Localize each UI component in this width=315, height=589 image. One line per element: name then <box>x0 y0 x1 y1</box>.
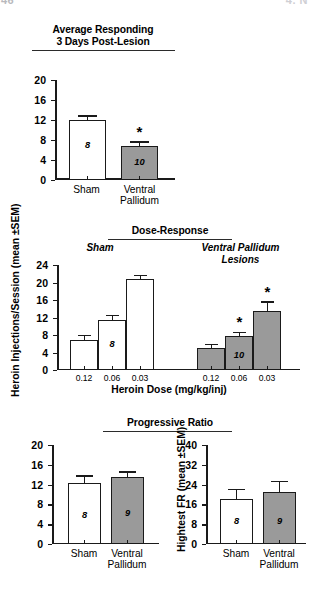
bar-sham-dose-003 <box>126 279 154 370</box>
panel-c-right-plot: 40 32 24 16 8 0 8 9 Sham Ventral Pallidu… <box>206 445 306 544</box>
panel-c-left-xcat-vp: Ventral Pallidum <box>94 548 160 571</box>
panel-average-responding: Average Responding 3 Days Post-Lesion 20… <box>0 20 200 210</box>
panel-a-ytick-8: 8 <box>40 134 46 145</box>
panel-c-right-ytick-0: 0 <box>191 539 197 550</box>
bar-vp-progressive-n: 9 <box>112 509 143 518</box>
panel-b-title: Dose-Response <box>105 225 235 237</box>
bar-lesion-dose-006: 10 <box>225 336 253 370</box>
errorbar-sham-dose-003 <box>134 275 147 279</box>
panel-a-ytick-12: 12 <box>34 115 46 126</box>
panel-b-title-rule <box>108 239 232 240</box>
panel-b-ytick-24: 24 <box>36 260 48 271</box>
bar-lesion-dose-003 <box>253 311 281 370</box>
errorbar-sham-dose-006 <box>106 315 119 320</box>
panel-a-xcat-vp: Ventral Pallidum <box>105 184 174 207</box>
errorbar-sham-progressive <box>76 475 93 482</box>
bar-sham-dose-006: 8 <box>98 320 126 370</box>
panel-dose-response: Dose-Response Sham Ventral Pallidum Lesi… <box>0 222 315 407</box>
panel-b-xval-lesion-003: 0.03 <box>249 374 285 383</box>
errorbar-lesion-dose-006 <box>233 332 246 337</box>
page-artifact-top-left: 46 <box>1 0 14 6</box>
panel-c-left-ytick-20: 20 <box>31 440 43 451</box>
group-label-lesions: Ventral Pallidum Lesions <box>178 242 303 265</box>
bar-vp-highest-fr: 9 <box>263 492 296 544</box>
group-label-sham: Sham <box>50 242 150 254</box>
panel-a-ytick-4: 4 <box>40 154 46 165</box>
bar-vp-progressive: 9 <box>111 477 144 544</box>
significance-star-vp-responding: * <box>137 124 143 139</box>
panel-c-left-ytick-12: 12 <box>31 479 43 490</box>
panel-c-title: Progressive Ratio <box>105 417 235 429</box>
errorbar-vp-highest-fr <box>271 481 288 492</box>
bar-vp-n: 10 <box>122 158 157 167</box>
panel-a-ytick-16: 16 <box>34 95 46 106</box>
bar-sham-n: 8 <box>70 141 105 150</box>
panel-b-ytick-16: 16 <box>36 295 48 306</box>
panel-a-plot: 20 16 12 8 4 0 8 10 * Sham Ven <box>55 80 175 180</box>
panel-a-ytick-0: 0 <box>40 174 46 185</box>
bar-vp-highest-fr-n: 9 <box>264 517 295 526</box>
significance-star-lesion-006: * <box>237 314 243 329</box>
panel-b-x-axis-title: Heroin Dose (mg/kg/inj) <box>69 385 269 395</box>
panel-c-left-ytick-16: 16 <box>31 460 43 471</box>
panel-c-title-rule <box>103 431 232 432</box>
panel-c-left-ytick-4: 4 <box>37 519 43 530</box>
panel-b-y-axis <box>57 265 59 370</box>
errorbar-sham-dose-012 <box>78 335 91 340</box>
panel-b-y-axis-title: Heroin Injections/Session (mean ±SEM) <box>11 204 21 397</box>
panel-b-ytick-0: 0 <box>42 365 48 376</box>
panel-a-title: Average Responding 3 Days Post-Lesion <box>28 24 178 47</box>
panel-b-ytick-20: 20 <box>36 277 48 288</box>
errorbar-sham-responding <box>78 115 97 120</box>
panel-c-right-y-axis <box>206 445 208 544</box>
errorbar-vp-responding <box>130 141 149 145</box>
bar-sham-highest-fr-n: 8 <box>221 517 252 526</box>
errorbar-lesion-dose-012 <box>205 344 218 348</box>
panel-progressive-ratio: Progressive Ratio 20 16 12 8 4 0 8 9 Sha… <box>0 412 315 589</box>
panel-c-right-ytick-8: 8 <box>191 519 197 530</box>
errorbar-lesion-dose-003 <box>261 301 274 311</box>
panel-a-title-rule <box>32 50 175 51</box>
panel-b-ytick-8: 8 <box>42 330 48 341</box>
panel-c-left-ytick-0: 0 <box>37 539 43 550</box>
significance-star-lesion-003: * <box>265 284 271 299</box>
errorbar-sham-highest-fr <box>228 489 245 499</box>
bar-sham-progressive-n: 8 <box>69 511 100 520</box>
panel-c-left-y-axis <box>52 445 54 544</box>
panel-b-plot: 24 20 16 12 8 4 0 8 10 * <box>57 265 300 370</box>
panel-a-ytick-20: 20 <box>34 75 46 86</box>
bar-lesion-dose-n: 10 <box>226 351 252 360</box>
bar-sham-dose-n: 8 <box>99 340 125 349</box>
panel-b-ytick-4: 4 <box>42 347 48 358</box>
panel-c-right-y-axis-title: Hightest FR (mean ±SEM) <box>177 427 187 552</box>
panel-b-xval-sham-003: 0.03 <box>122 374 158 383</box>
panel-a-y-axis <box>55 80 57 180</box>
bar-sham-highest-fr: 8 <box>220 499 253 544</box>
bar-sham-progressive: 8 <box>68 483 101 544</box>
figure-root: 46 4. N Average Responding 3 Days Post-L… <box>0 0 315 589</box>
bar-vp-responding: 10 <box>121 146 158 180</box>
errorbar-vp-progressive <box>119 471 136 477</box>
panel-b-ytick-12: 12 <box>36 312 48 323</box>
panel-c-left-ytick-8: 8 <box>37 499 43 510</box>
panel-c-right-xcat-vp: Ventral Pallidum <box>246 548 312 571</box>
page-artifact-top-right: 4. N <box>286 0 308 6</box>
panel-c-left-plot: 20 16 12 8 4 0 8 9 Sham Ventral Pallidum <box>52 445 159 544</box>
bar-sham-responding: 8 <box>69 120 106 179</box>
